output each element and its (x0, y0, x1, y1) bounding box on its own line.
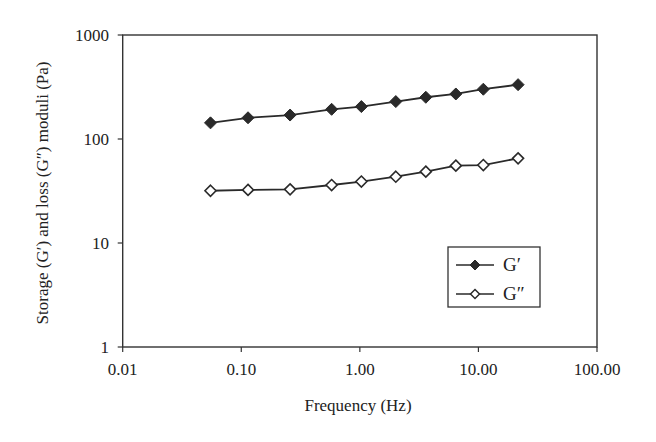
filled-diamond-marker (420, 91, 432, 103)
moduli-frequency-chart: 0.010.101.0010.00100.00 1101001000 G′ G″… (0, 0, 656, 442)
filled-diamond-marker (326, 103, 338, 115)
filled-diamond-marker (284, 109, 296, 121)
x-axis-ticks: 0.010.101.0010.00100.00 (108, 347, 621, 379)
y-axis-ticks: 1101001000 (75, 26, 123, 357)
x-tick-label: 1.00 (345, 360, 375, 379)
x-tick-label: 10.00 (459, 360, 497, 379)
open-diamond-marker (285, 184, 296, 195)
filled-diamond-marker (477, 83, 489, 95)
open-diamond-marker (326, 180, 337, 191)
legend-box (448, 247, 540, 307)
legend-label-g-prime: G′ (503, 254, 521, 275)
x-tick-label: 100.00 (574, 360, 621, 379)
filled-diamond-marker (242, 112, 254, 124)
filled-diamond-marker (512, 79, 524, 91)
y-axis-title: Storage (G′) and loss (G″) moduli (Pa) (33, 62, 52, 325)
series-line (210, 158, 518, 190)
filled-diamond-marker (204, 117, 216, 129)
open-diamond-marker (513, 153, 524, 164)
filled-diamond-marker (390, 96, 402, 108)
open-diamond-marker (243, 184, 254, 195)
data-series (204, 79, 524, 197)
series-g-double-prime (205, 153, 524, 196)
open-diamond-marker (450, 160, 461, 171)
y-tick-label: 100 (84, 130, 110, 149)
x-axis-title: Frequency (Hz) (304, 396, 411, 415)
filled-diamond-marker (450, 88, 462, 100)
legend: G′ G″ (448, 247, 540, 307)
x-tick-label: 0.10 (226, 360, 256, 379)
filled-diamond-marker (355, 101, 367, 113)
open-diamond-marker (478, 160, 489, 171)
y-tick-label: 1000 (75, 26, 109, 45)
x-tick-label: 0.01 (108, 360, 138, 379)
open-diamond-marker (390, 171, 401, 182)
open-diamond-marker (205, 185, 216, 196)
open-diamond-marker (420, 166, 431, 177)
y-tick-label: 1 (101, 338, 110, 357)
legend-label-g-double-prime: G″ (503, 283, 525, 304)
y-tick-label: 10 (92, 234, 109, 253)
series-g-prime (204, 79, 524, 129)
open-diamond-marker (356, 176, 367, 187)
